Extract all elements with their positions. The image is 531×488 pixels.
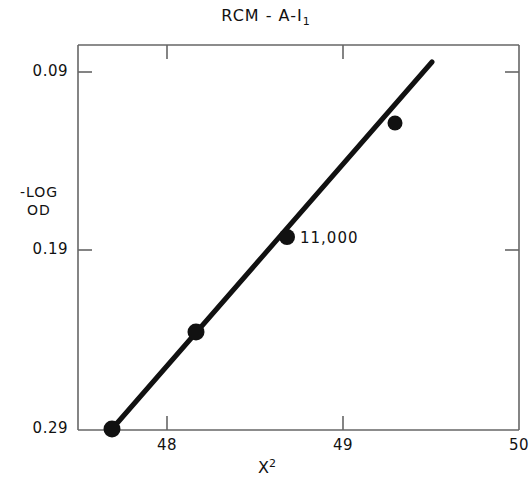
y-axis-title-line1: -LOG <box>20 184 58 200</box>
x-tick-label-1: 49 <box>323 436 363 454</box>
data-point <box>388 116 403 131</box>
x-tick-label-0: 48 <box>147 436 187 454</box>
y-tick-label-0: 0.09 <box>6 62 68 80</box>
x-tick-label-2: 50 <box>499 436 531 454</box>
data-point-annotation: 11,000 <box>300 229 359 247</box>
x-axis-title-main: X <box>258 458 269 477</box>
axis-frame <box>78 45 519 430</box>
y-axis-title-line2: OD <box>2 201 76 219</box>
chart-title-main: RCM - A-I <box>221 6 302 25</box>
y-axis-ticks <box>78 72 519 250</box>
plot-area <box>0 0 531 488</box>
chart-title-subscript: 1 <box>303 15 310 28</box>
chart-title: RCM - A-I1 <box>0 6 531 25</box>
y-axis-title: -LOGOD <box>2 183 76 219</box>
x-axis-title-superscript: 2 <box>269 457 276 470</box>
y-tick-label-1: 0.19 <box>6 240 68 258</box>
x-axis-title: X2 <box>258 458 276 477</box>
trend-line <box>112 62 432 429</box>
y-tick-label-2: 0.29 <box>6 419 68 437</box>
data-point <box>279 229 295 245</box>
chart-figure: RCM - A-I1 0.09 0.19 0.29 48 49 50 -LOGO… <box>0 0 531 488</box>
data-point <box>104 421 121 438</box>
data-point <box>188 324 205 341</box>
